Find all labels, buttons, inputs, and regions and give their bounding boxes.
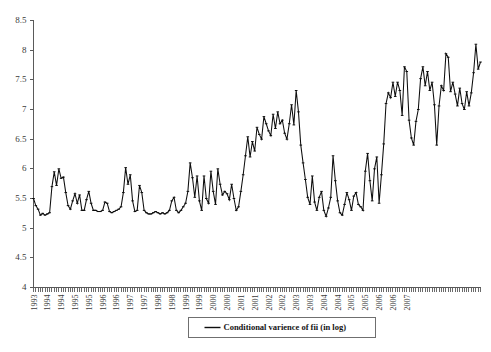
- x-tick-label: 2002: [278, 295, 287, 311]
- data-series-group: [32, 44, 482, 216]
- x-tick-label: 2007: [403, 295, 412, 311]
- x-tick-label: 2003: [306, 295, 315, 311]
- y-tick-label: 7: [22, 104, 27, 114]
- x-tick-label: 2004: [334, 295, 343, 311]
- x-tick-label: 2003: [292, 295, 301, 311]
- x-tick-label: 1999: [182, 295, 191, 311]
- x-tick-label: 2001: [237, 295, 246, 311]
- x-tick-label: 1998: [154, 295, 163, 311]
- y-tick-label: 7.5: [15, 74, 27, 84]
- x-tick-label: 1994: [43, 295, 52, 311]
- line-chart: 8.587.576.565.554.54 1993199419941995199…: [0, 0, 491, 352]
- x-tick-label: 2005: [347, 295, 356, 311]
- x-tick-label: 2006: [389, 295, 398, 311]
- x-tick-label: 1995: [71, 295, 80, 311]
- x-tick-label: 2000: [223, 295, 232, 311]
- y-tick-label: 8.5: [15, 15, 27, 25]
- x-tick-label: 2000: [209, 295, 218, 311]
- y-tick-label: 5: [22, 223, 27, 233]
- series-line-conditional-varience: [34, 44, 481, 216]
- chart-container: 8.587.576.565.554.54 1993199419941995199…: [0, 0, 491, 352]
- x-tick-label: 1995: [85, 295, 94, 311]
- legend-label: Conditional varience of fii (in log): [224, 322, 347, 332]
- x-tick-label: 1996: [112, 295, 121, 311]
- y-axis: 8.587.576.565.554.54: [15, 15, 33, 292]
- x-tick-label: 1996: [99, 295, 108, 311]
- y-tick-label: 4.5: [15, 252, 27, 262]
- x-tick-label: 1999: [195, 295, 204, 311]
- x-tick-label: 1998: [168, 295, 177, 311]
- x-tick-label: 2002: [265, 295, 274, 311]
- x-axis: 1993199419941995199519961996199719971998…: [30, 288, 481, 311]
- x-tick-label: 1997: [140, 295, 149, 311]
- x-tick-label: 1993: [30, 295, 39, 311]
- y-tick-label: 6: [22, 163, 27, 173]
- y-tick-label: 6.5: [15, 134, 27, 144]
- x-tick-label: 2004: [320, 295, 329, 311]
- x-tick-label: 2001: [251, 295, 260, 311]
- y-tick-label: 5.5: [15, 193, 27, 203]
- chart-legend: Conditional varience of fii (in log): [189, 318, 376, 338]
- x-tick-label: 2006: [375, 295, 384, 311]
- x-tick-label: 1997: [126, 295, 135, 311]
- y-tick-label: 8: [22, 45, 27, 55]
- y-tick-label: 4: [22, 282, 27, 292]
- x-tick-label: 2005: [361, 295, 370, 311]
- x-tick-label: 1994: [57, 295, 66, 311]
